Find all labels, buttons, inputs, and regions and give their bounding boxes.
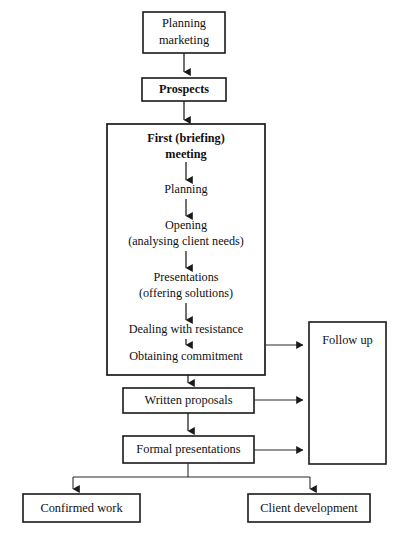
node-planning-marketing-line2: marketing (159, 33, 209, 47)
node-confirmed-work-label: Confirmed work (40, 501, 123, 515)
meeting-step-3-line2: (offering solutions) (139, 286, 233, 300)
meeting-step-5-line1: Obtaining commitment (129, 349, 243, 363)
node-meeting-group (107, 124, 265, 375)
connector-outcome-fork (73, 463, 310, 477)
meeting-step-1-line1: Planning (164, 182, 207, 196)
meeting-step-2-line1: Opening (165, 218, 207, 232)
meeting-step-4-line1: Dealing with resistance (129, 322, 243, 336)
node-prospects-label: Prospects (159, 82, 209, 96)
meeting-heading-line1: First (briefing) (147, 131, 225, 145)
node-written-proposals-label: Written proposals (145, 393, 233, 407)
flowchart-diagram: Planning marketing Prospects First (brie… (0, 0, 405, 549)
flowchart-canvas: Planning marketing Prospects First (brie… (0, 0, 405, 549)
meeting-heading-line2: meeting (165, 147, 206, 161)
node-planning-marketing-line1: Planning (162, 16, 206, 30)
meeting-step-2-line2: (analysing client needs) (128, 234, 244, 248)
meeting-step-3-line1: Presentations (154, 270, 219, 284)
node-client-development-label: Client development (260, 501, 358, 515)
node-follow-up-label: Follow up (322, 333, 373, 347)
node-formal-presentations-label: Formal presentations (136, 442, 240, 456)
